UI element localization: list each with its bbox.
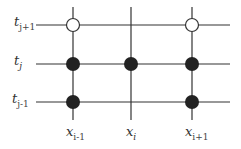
filled-node-icon — [185, 57, 199, 71]
label-x-i-1: xi-1 — [66, 124, 85, 142]
label-t-j+1: tj+1 — [14, 14, 35, 32]
open-node-icon — [67, 19, 80, 32]
label-t-j-1: tj-1 — [12, 91, 29, 109]
label-x-i: xi — [126, 124, 136, 142]
filled-nodes — [66, 57, 199, 109]
filled-node-icon — [66, 95, 80, 109]
label-t-j: tj — [14, 53, 22, 71]
filled-node-icon — [66, 57, 80, 71]
stencil-diagram: tj+1 tj tj-1 xi-1 xi xi+1 — [0, 0, 241, 149]
time-labels: tj+1 tj tj-1 — [12, 14, 35, 109]
open-node-icon — [186, 19, 199, 32]
space-labels: xi-1 xi xi+1 — [66, 124, 209, 142]
filled-node-icon — [124, 57, 138, 71]
label-x-i+1: xi+1 — [185, 124, 209, 142]
filled-node-icon — [185, 95, 199, 109]
